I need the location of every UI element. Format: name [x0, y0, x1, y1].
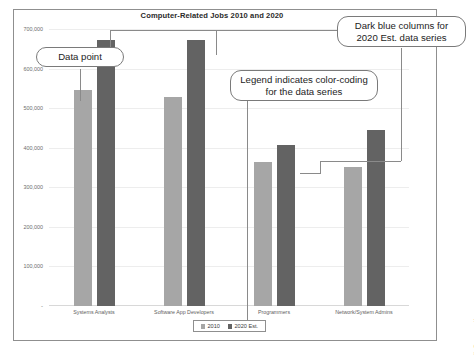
x-axis-categories: Systems AnalystsSoftware App DevelopersP… [49, 309, 409, 315]
legend-swatch [201, 324, 205, 329]
callout-legend-note: Legend indicates color-coding for the da… [230, 70, 378, 101]
bar-series-2010[interactable] [344, 167, 362, 306]
x-axis-category-label: Programmers [229, 309, 319, 315]
x-axis-category-label: Systems Analysts [49, 309, 139, 315]
callout-legend-note-line1: Legend indicates color-coding [238, 74, 370, 86]
bar-group [139, 29, 229, 306]
y-axis-tick-label: 700,000 [24, 26, 44, 32]
leader-line-darkblue-c [216, 30, 217, 55]
bar-series-2020[interactable] [97, 40, 115, 306]
callout-dark-blue: Dark blue columns for 2020 Est. data ser… [337, 16, 466, 47]
leader-line-legendnote [247, 101, 248, 320]
bar-series-2010[interactable] [74, 90, 92, 306]
callout-data-point-text: Data point [58, 51, 102, 62]
bar-series-2020[interactable] [187, 40, 205, 306]
y-axis-tick-label: 600,000 [24, 66, 44, 72]
chart-legend[interactable]: 20102020 Est. [193, 320, 266, 332]
callout-dark-blue-line1: Dark blue columns for [345, 20, 458, 32]
callout-data-point: Data point [36, 47, 124, 67]
leader-line-darkblue-b [110, 30, 337, 31]
bar-series-2010[interactable] [164, 97, 182, 306]
y-axis-tick-label: 300,000 [24, 184, 44, 190]
y-axis-tick-label: 200,000 [24, 224, 44, 230]
legend-label: 2020 Est. [234, 323, 258, 329]
y-axis-tick-label: 400,000 [24, 145, 44, 151]
legend-item[interactable]: 2020 Est. [228, 323, 258, 329]
callout-dark-blue-line2: 2020 Est. data series [345, 32, 458, 44]
bar-group [49, 29, 139, 306]
legend-item[interactable]: 2010 [201, 323, 220, 329]
bar-series-2020[interactable] [277, 145, 295, 306]
leader-line-darkblue-f [320, 161, 321, 173]
y-axis-tick-label: - [41, 303, 43, 309]
callout-legend-note-line2: for the data series [238, 86, 370, 98]
bar-series-2020[interactable] [367, 130, 385, 306]
x-axis-category-label: Software App Developers [139, 309, 229, 315]
y-axis-tick-label: 100,000 [24, 263, 44, 269]
legend-label: 2010 [208, 323, 220, 329]
leader-line-darkblue-e [320, 161, 401, 162]
leader-line-darkblue-d [401, 48, 402, 161]
leader-line-darkblue-g [300, 173, 321, 174]
y-axis-tick-label: 500,000 [24, 105, 44, 111]
chart-figure: Computer-Related Jobs 2010 and 2020 700,… [0, 0, 474, 355]
bar-series-2010[interactable] [254, 162, 272, 306]
x-axis-category-label: Network/System Admins [319, 309, 409, 315]
legend-swatch [228, 324, 232, 329]
leader-line-datapoint [80, 69, 81, 101]
